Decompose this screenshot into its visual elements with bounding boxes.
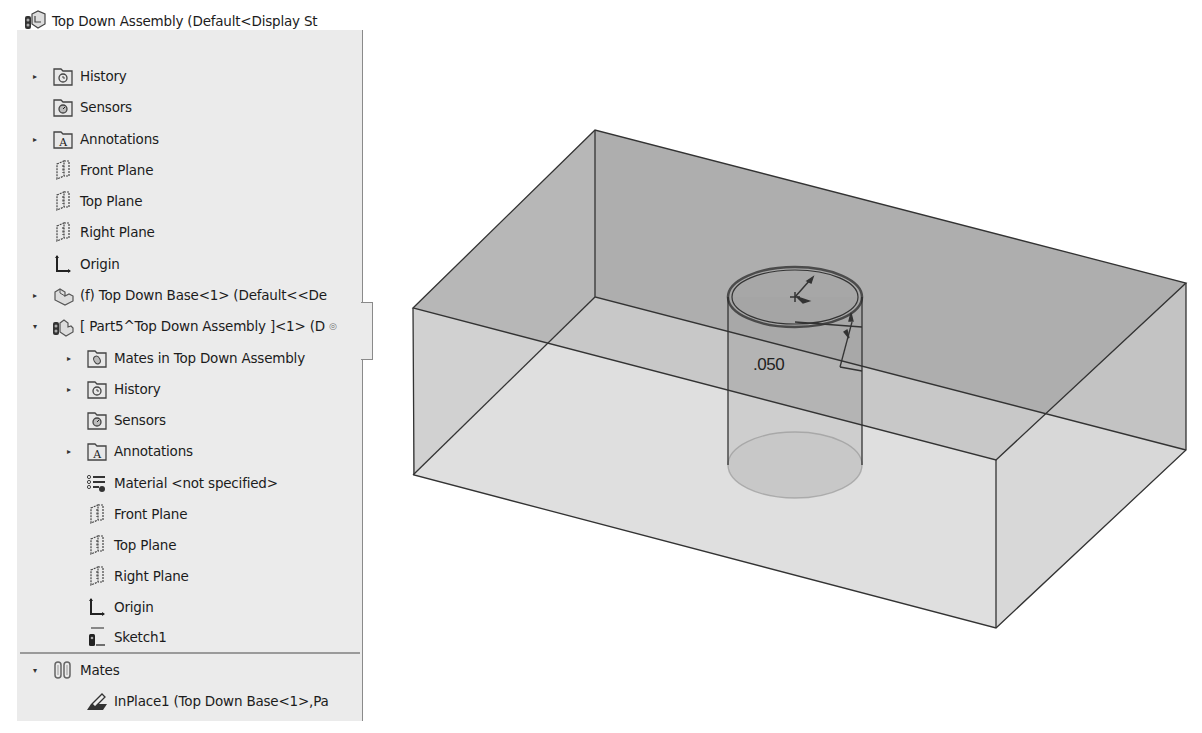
- model-3d-view[interactable]: [380, 0, 1202, 733]
- tree-item-label: (f) Top Down Base<1> (Default<<De: [80, 287, 327, 303]
- tree-item-label: Sensors: [80, 99, 132, 115]
- tree-item-label: [ Part5^Top Down Assembly ]<1> (D: [80, 318, 325, 334]
- sensors-folder-icon: [86, 409, 108, 431]
- tree-item-label: Origin: [80, 256, 120, 272]
- mates-folder-icon: [86, 347, 108, 369]
- tree-item-annotations-2[interactable]: ▸ A Annotations: [64, 438, 193, 464]
- tree-item-origin-2[interactable]: Origin: [64, 594, 154, 620]
- expander-collapsed-icon[interactable]: ▸: [64, 446, 74, 456]
- tree-item-sketch1[interactable]: Sketch1: [64, 624, 167, 650]
- tree-item-label: Top Plane: [80, 193, 142, 209]
- tree-item-label: Top Plane: [114, 537, 176, 553]
- svg-text:A: A: [58, 136, 68, 149]
- expander-collapsed-icon[interactable]: ▸: [64, 353, 74, 363]
- tree-root-assembly[interactable]: Top Down Assembly (Default<Display St: [24, 8, 317, 34]
- plane-icon: [86, 534, 108, 556]
- assembly-icon: [24, 10, 46, 32]
- history-folder-icon: [86, 378, 108, 400]
- tree-item-label: Annotations: [114, 443, 193, 459]
- expander-collapsed-icon[interactable]: ▸: [30, 134, 40, 144]
- tree-item-annotations[interactable]: ▸ A Annotations: [30, 126, 159, 152]
- tree-item-label: Origin: [114, 599, 154, 615]
- svg-text:A: A: [92, 448, 102, 461]
- tree-separator: [20, 652, 360, 654]
- history-folder-icon: [52, 65, 74, 87]
- tree-item-label: Mates in Top Down Assembly: [114, 350, 305, 366]
- tree-item-label: Annotations: [80, 131, 159, 147]
- annotations-folder-icon: A: [52, 128, 74, 150]
- tree-item-label: Mates: [80, 662, 120, 678]
- part-icon: [52, 284, 74, 306]
- tree-item-label: History: [114, 381, 161, 397]
- tree-item-part5-virtual[interactable]: ▾ [ Part5^Top Down Assembly ]<1> (D ◎: [30, 313, 337, 339]
- tree-item-label: Material <not specified>: [114, 475, 278, 491]
- plane-icon: [52, 159, 74, 181]
- tree-item-inplace1[interactable]: InPlace1 (Top Down Base<1>,Pa: [64, 688, 329, 714]
- tree-item-material[interactable]: Material <not specified>: [64, 470, 278, 496]
- expander-collapsed-icon[interactable]: ▸: [30, 71, 40, 81]
- graphics-viewport[interactable]: .050: [380, 0, 1202, 733]
- mates-icon: [52, 659, 74, 681]
- tree-item-mates-in-assembly[interactable]: ▸ Mates in Top Down Assembly: [64, 345, 305, 371]
- dimension-value[interactable]: .050: [753, 355, 784, 375]
- tree-item-sensors-2[interactable]: Sensors: [64, 407, 166, 433]
- tree-item-label: Front Plane: [80, 162, 153, 178]
- virtual-part-icon: [52, 315, 74, 337]
- tree-item-label: History: [80, 68, 127, 84]
- tree-item-top-down-base[interactable]: ▸ (f) Top Down Base<1> (Default<<De: [30, 282, 327, 308]
- origin-icon: [86, 596, 108, 618]
- tree-item-history-2[interactable]: ▸ History: [64, 376, 161, 402]
- annotations-folder-icon: A: [86, 440, 108, 462]
- tree-item-history[interactable]: ▸ History: [30, 63, 127, 89]
- tree-item-label: InPlace1 (Top Down Base<1>,Pa: [114, 693, 329, 709]
- expander-expanded-icon[interactable]: ▾: [30, 665, 40, 675]
- tree-item-mates[interactable]: ▾ Mates: [30, 657, 120, 683]
- tree-item-right-plane[interactable]: Right Plane: [30, 219, 155, 245]
- tree-item-origin[interactable]: Origin: [30, 251, 120, 277]
- tree-item-label: Right Plane: [80, 224, 155, 240]
- tree-selection-tab: [361, 302, 373, 360]
- tree-item-label: Sensors: [114, 412, 166, 428]
- tree-root-label: Top Down Assembly (Default<Display St: [52, 13, 317, 29]
- tree-item-front-plane-2[interactable]: Front Plane: [64, 501, 187, 527]
- tree-item-right-plane-2[interactable]: Right Plane: [64, 563, 189, 589]
- sketch-icon: [86, 626, 108, 648]
- expander-expanded-icon[interactable]: ▾: [30, 321, 40, 331]
- tree-item-front-plane[interactable]: Front Plane: [30, 157, 153, 183]
- tree-item-label: Sketch1: [114, 629, 167, 645]
- inplace-mate-icon: [86, 690, 108, 712]
- tree-item-top-plane[interactable]: Top Plane: [30, 188, 142, 214]
- plane-icon: [52, 221, 74, 243]
- tree-item-label: Right Plane: [114, 568, 189, 584]
- material-icon: [86, 472, 108, 494]
- origin-icon: [52, 253, 74, 275]
- expander-collapsed-icon[interactable]: ▸: [30, 290, 40, 300]
- tree-item-sensors[interactable]: Sensors: [30, 94, 132, 120]
- tree-item-top-plane-2[interactable]: Top Plane: [64, 532, 176, 558]
- external-reference-icon: ◎: [329, 321, 337, 331]
- plane-icon: [86, 565, 108, 587]
- sensors-folder-icon: [52, 96, 74, 118]
- expander-collapsed-icon[interactable]: ▸: [64, 384, 74, 394]
- plane-icon: [86, 503, 108, 525]
- plane-icon: [52, 190, 74, 212]
- tree-item-label: Front Plane: [114, 506, 187, 522]
